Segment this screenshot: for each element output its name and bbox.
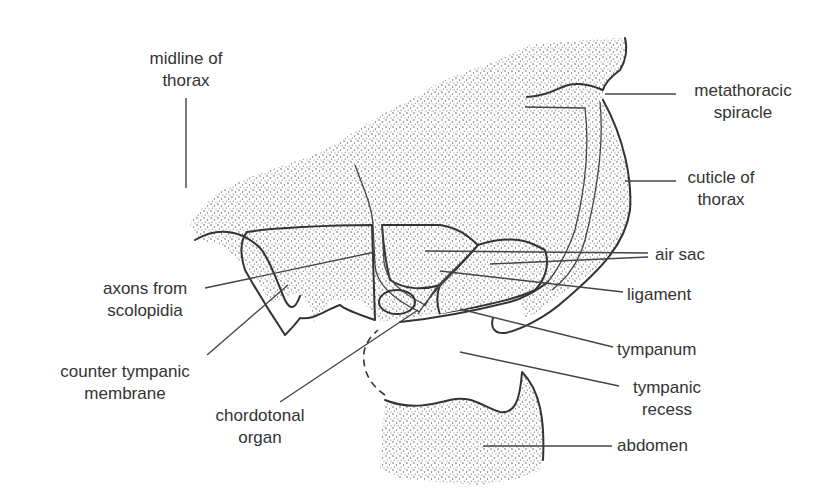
label-tympanic-recess: tympanic recess <box>622 377 712 421</box>
label-axons-from-scolopidia: axons from scolopidia <box>85 278 205 322</box>
label-chordotonal-organ: chordotonal organ <box>200 405 320 449</box>
label-tympanum: tympanum <box>617 339 696 361</box>
label-counter-tympanic-membrane: counter tympanic membrane <box>40 361 210 405</box>
label-metathoracic-spiracle: metathoracic spiracle <box>678 80 808 124</box>
label-cuticle-of-thorax: cuticle of thorax <box>676 167 766 211</box>
label-midline-of-thorax: midline of thorax <box>136 48 236 92</box>
label-air-sac: air sac <box>655 244 705 266</box>
label-abdomen: abdomen <box>617 435 688 457</box>
label-ligament: ligament <box>627 284 691 306</box>
